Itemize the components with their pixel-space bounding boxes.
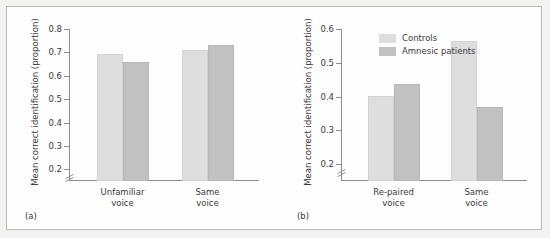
- bar-controls: [451, 41, 477, 181]
- y-tick-mark: [64, 99, 69, 100]
- chart-panel-b: Mean correct identification (proportion)…: [275, 7, 543, 231]
- figure-frame: Mean correct identification (proportion)…: [6, 6, 542, 230]
- y-tick-mark: [64, 146, 69, 147]
- legend-label-controls: Controls: [402, 33, 437, 43]
- y-tick-label: 0.5: [320, 58, 334, 68]
- y-tick-mark: [336, 130, 341, 131]
- y-tick-label: 0.3: [48, 141, 62, 151]
- plot-area-b: 0.20.30.40.50.6 Re-paired voiceSame voic…: [341, 29, 527, 181]
- y-tick-mark: [64, 76, 69, 77]
- y-tick-mark: [336, 97, 341, 98]
- legend-swatch-controls-icon: [379, 34, 396, 43]
- y-tick-label: 0.4: [48, 118, 62, 128]
- bar-controls: [182, 50, 208, 181]
- y-tick-mark: [336, 164, 341, 165]
- plot-area-a: 0.20.30.40.50.60.70.8 Unfamiliar voiceSa…: [69, 29, 259, 181]
- y-tick-mark: [64, 52, 69, 53]
- bar-group: [97, 29, 149, 181]
- y-tick-label: 0.2: [320, 159, 334, 169]
- y-tick-label: 0.4: [320, 92, 334, 102]
- bar-amnesic: [123, 62, 149, 181]
- legend-swatch-amnesic-icon: [379, 47, 396, 56]
- y-tick-mark: [64, 169, 69, 170]
- legend-item-amnesic: Amnesic patients: [379, 46, 476, 56]
- y-tick-label: 0.3: [320, 125, 334, 135]
- bar-amnesic: [394, 84, 420, 181]
- bars-container-a: [69, 29, 259, 181]
- y-tick-label: 0.2: [48, 164, 62, 174]
- x-category-label: Same voice: [160, 187, 256, 209]
- y-axis-title-b: Mean correct identification (proportion): [303, 17, 313, 187]
- y-tick-label: 0.7: [48, 47, 62, 57]
- bar-controls: [97, 54, 123, 181]
- bar-amnesic: [208, 45, 234, 181]
- x-category-label: Same voice: [429, 187, 525, 209]
- y-tick-label: 0.8: [48, 24, 62, 34]
- y-tick-label: 0.5: [48, 94, 62, 104]
- bar-amnesic: [477, 107, 503, 181]
- chart-panel-a: Mean correct identification (proportion)…: [7, 7, 275, 231]
- y-tick-label: 0.6: [48, 71, 62, 81]
- chart-legend: Controls Amnesic patients: [379, 33, 476, 59]
- bar-controls: [368, 96, 394, 181]
- panel-label-a: (a): [25, 211, 37, 221]
- y-tick-mark: [64, 123, 69, 124]
- y-tick-mark: [336, 63, 341, 64]
- legend-label-amnesic: Amnesic patients: [402, 46, 476, 56]
- panel-label-b: (b): [297, 211, 309, 221]
- y-tick-mark: [64, 29, 69, 30]
- y-tick-label: 0.6: [320, 24, 334, 34]
- y-axis-title-a: Mean correct identification (proportion): [30, 17, 40, 187]
- legend-item-controls: Controls: [379, 33, 476, 43]
- x-category-label: Re-paired voice: [346, 187, 442, 209]
- x-category-label: Unfamiliar voice: [75, 187, 171, 209]
- y-tick-mark: [336, 29, 341, 30]
- bar-group: [182, 29, 234, 181]
